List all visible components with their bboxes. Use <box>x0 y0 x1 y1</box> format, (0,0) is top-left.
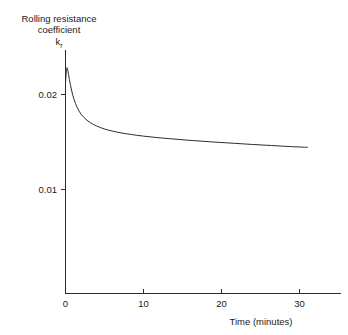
x-tick-label-10: 10 <box>138 298 149 309</box>
x-tick-label-30: 30 <box>294 298 305 309</box>
y-tick-label-0.01: 0.01 <box>39 184 58 195</box>
chart-figure: 0.02 0.01 0 10 20 30 Time (minutes) Roll… <box>0 0 348 335</box>
y-axis-symbol-subscript: r <box>60 42 63 49</box>
data-curve-rolling-resistance <box>66 68 308 148</box>
y-axis-title-line-2: coefficient <box>38 24 81 35</box>
rolling-resistance-plot: 0.02 0.01 0 10 20 30 Time (minutes) Roll… <box>0 0 348 335</box>
x-axis-title: Time (minutes) <box>230 316 293 327</box>
y-axis-title-line-1: Rolling resistance <box>22 13 97 24</box>
y-tick-label-0.02: 0.02 <box>39 89 58 100</box>
x-tick-label-0: 0 <box>63 298 68 309</box>
y-axis-title-symbol: kr <box>55 36 63 49</box>
x-tick-label-20: 20 <box>216 298 227 309</box>
